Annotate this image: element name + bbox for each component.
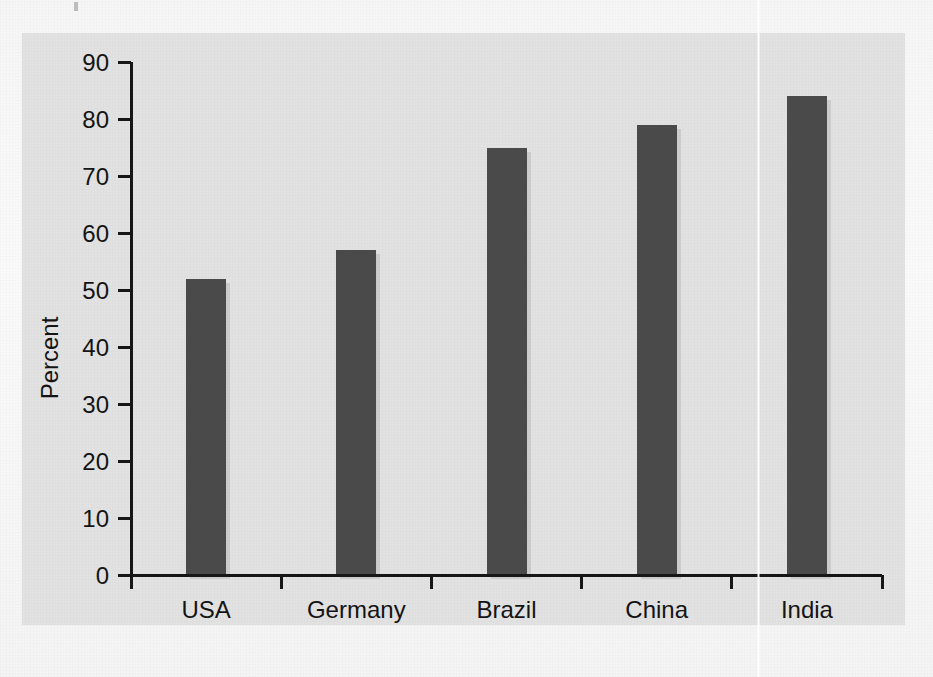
y-axis-tick-label: 60 bbox=[82, 220, 109, 247]
bar-chart-plot: Percent 0102030405060708090 USAGermanyBr… bbox=[22, 33, 905, 625]
y-axis-tick-label: 20 bbox=[82, 448, 109, 475]
y-axis-title: Percent bbox=[36, 316, 63, 399]
y-axis-tick-label: 0 bbox=[96, 562, 109, 589]
y-axis-tick-label: 80 bbox=[82, 106, 109, 133]
y-axis-tick-marks bbox=[118, 62, 131, 575]
y-axis-tick-label: 30 bbox=[82, 391, 109, 418]
bar-germany[interactable] bbox=[336, 250, 376, 575]
y-axis-tick-labels: 0102030405060708090 bbox=[82, 49, 109, 589]
scan-artifact-mark bbox=[74, 2, 78, 11]
y-axis-tick-label: 50 bbox=[82, 277, 109, 304]
x-axis-category-labels: USAGermanyBrazilChinaIndia bbox=[181, 596, 833, 623]
y-axis-tick-label: 70 bbox=[82, 163, 109, 190]
x-axis-category-label: Germany bbox=[307, 596, 406, 623]
chart-panel: Percent 0102030405060708090 USAGermanyBr… bbox=[22, 33, 905, 625]
bar-brazil[interactable] bbox=[487, 148, 527, 576]
y-axis-tick-label: 40 bbox=[82, 334, 109, 361]
x-axis-category-label: USA bbox=[181, 596, 230, 623]
bar-china[interactable] bbox=[637, 125, 677, 575]
bar-usa[interactable] bbox=[186, 279, 226, 575]
x-axis-category-label: Brazil bbox=[476, 596, 536, 623]
chart-page: Percent 0102030405060708090 USAGermanyBr… bbox=[0, 0, 933, 677]
x-axis-category-label: China bbox=[625, 596, 688, 623]
bars-group bbox=[186, 96, 831, 579]
y-axis-tick-label: 90 bbox=[82, 49, 109, 76]
x-axis-category-label: India bbox=[781, 596, 834, 623]
y-axis-tick-label: 10 bbox=[82, 505, 109, 532]
bar-india[interactable] bbox=[787, 96, 827, 575]
